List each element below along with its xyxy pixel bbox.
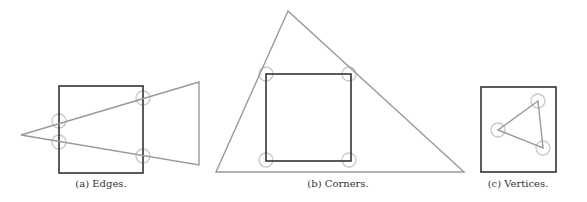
caption-b-corners: (b) Corners. (307, 178, 368, 189)
triangle (21, 82, 199, 165)
square (59, 86, 143, 173)
triangle (216, 11, 464, 172)
intersection-circle (342, 153, 356, 167)
square (266, 74, 351, 161)
panel-b-corners (216, 11, 464, 172)
caption-c-vertices: (c) Vertices. (488, 178, 549, 189)
caption-a-edges: (a) Edges. (75, 178, 126, 189)
panel-a-edges (21, 82, 199, 173)
panel-c-vertices (481, 87, 556, 172)
figure-canvas (0, 0, 587, 202)
